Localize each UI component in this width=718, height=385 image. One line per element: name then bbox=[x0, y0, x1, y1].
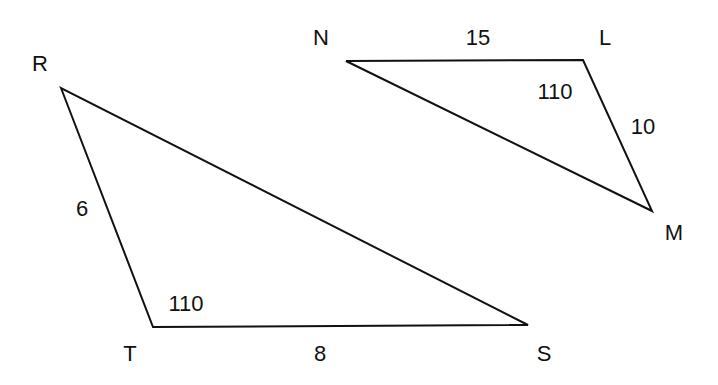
vertex-label-t: T bbox=[123, 343, 136, 365]
side-label-ts: 8 bbox=[314, 343, 326, 365]
vertex-label-r: R bbox=[32, 53, 48, 75]
vertex-label-s: S bbox=[537, 343, 552, 365]
vertex-label-l: L bbox=[599, 27, 611, 49]
vertex-label-n: N bbox=[313, 27, 329, 49]
side-label-rt: 6 bbox=[76, 198, 88, 220]
triangle-rts bbox=[61, 88, 528, 327]
triangle-nlm bbox=[346, 60, 652, 211]
angle-label-l: 110 bbox=[537, 81, 572, 103]
side-label-lm: 10 bbox=[631, 116, 655, 138]
angle-label-t: 110 bbox=[168, 293, 203, 315]
vertex-label-m: M bbox=[665, 222, 683, 244]
diagram-canvas bbox=[0, 0, 718, 385]
side-label-nl: 15 bbox=[466, 27, 490, 49]
